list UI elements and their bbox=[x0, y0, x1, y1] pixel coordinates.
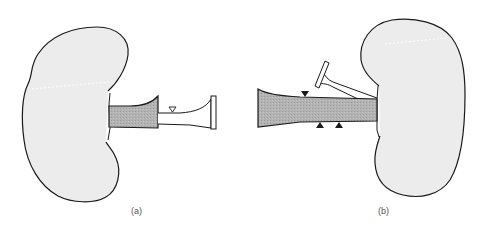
panel-label-b: (b) bbox=[378, 206, 389, 216]
panel-a bbox=[22, 27, 216, 202]
renal-pelvis-a bbox=[109, 96, 158, 128]
ureter-a bbox=[158, 99, 211, 128]
filled-triangle-up-marker-2 bbox=[335, 122, 343, 128]
filled-triangle-down-marker bbox=[301, 91, 309, 97]
panel-label-a: (a) bbox=[131, 206, 142, 216]
ureter-cap-a bbox=[211, 96, 216, 129]
open-triangle-marker bbox=[169, 107, 176, 112]
kidney-diagram bbox=[0, 0, 488, 229]
panel-b bbox=[258, 19, 465, 196]
filled-triangle-up-marker-1 bbox=[316, 122, 324, 128]
